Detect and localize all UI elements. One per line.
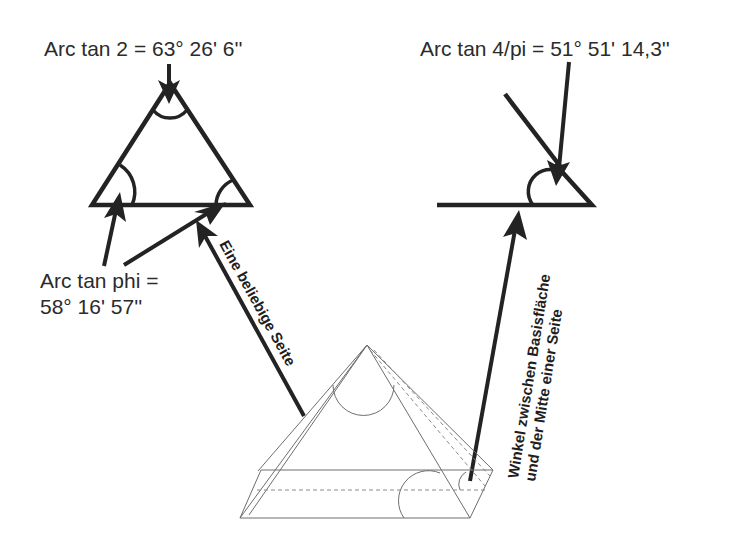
left-base-angle-arc xyxy=(120,165,135,205)
face-triangle xyxy=(92,83,250,205)
side-angle-label: Arc tan 4/pi = 51° 51' 14,3'' xyxy=(420,37,670,60)
pyramid-angle-diagram: Arc tan 2 = 63° 26' 6'' Arc tan 4/pi = 5… xyxy=(0,0,736,551)
slope-outline xyxy=(437,164,592,205)
slope-angle-figure xyxy=(437,94,592,205)
any-side-label: Eine beliebige Seite xyxy=(216,237,299,368)
midline-angle-arc-thin xyxy=(459,472,466,490)
any-side-arrow xyxy=(196,220,304,416)
slope-angle-arrow xyxy=(547,62,570,186)
base-angle-arc-thin xyxy=(399,471,440,518)
slope-extension-line xyxy=(505,94,560,166)
apex-angle-arc xyxy=(153,110,187,118)
apex-angle-label: Arc tan 2 = 63° 26' 6'' xyxy=(44,37,242,60)
triangle-outline xyxy=(92,83,250,205)
base-angle-label-line2: 58° 16' 57'' xyxy=(40,295,142,318)
apex-angle-arc-thin xyxy=(333,385,394,415)
right-base-angle-arc xyxy=(216,180,233,205)
base-angle-label-line1: Arc tan phi = xyxy=(40,269,158,292)
